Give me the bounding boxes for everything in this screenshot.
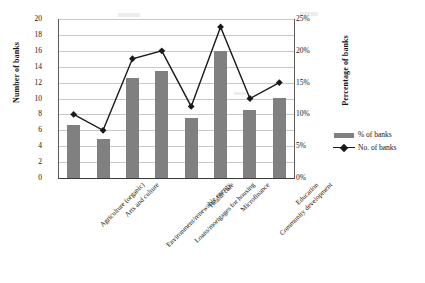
line-marker (217, 24, 224, 31)
y-tick-label-left: 12 (26, 79, 42, 87)
y-axis-left-ticks: 02468101214161820 (24, 0, 42, 283)
y-tick-label-left: 8 (26, 110, 42, 118)
plot-area (58, 19, 295, 179)
legend-item-no-of-banks: No. of banks (333, 141, 423, 154)
y-tick-label-right: 20% (296, 47, 318, 55)
x-axis-category-labels: Agriculture (organic)Arts and cultureEnv… (58, 179, 293, 279)
y-tick-label-right: 10% (296, 110, 318, 118)
y-tick-label-left: 18 (26, 31, 42, 39)
y-tick-label-left: 6 (26, 126, 42, 134)
y-axis-left-title: Number of banks (12, 29, 21, 117)
y-tick-label-left: 16 (26, 47, 42, 55)
y-tick-label-left: 14 (26, 63, 42, 71)
bar-swatch-icon (333, 129, 355, 141)
y-tick-label-right: 25% (296, 15, 318, 23)
y-tick-label-left: 2 (26, 158, 42, 166)
line-marker (276, 79, 283, 86)
y-tick-label-left: 0 (26, 174, 42, 182)
line-series (59, 19, 294, 178)
y-tick-label-right: 5% (296, 142, 318, 150)
chart-legend: % of banks No. of banks (333, 128, 423, 154)
line-diamond-icon (333, 142, 355, 154)
legend-label: No. of banks (358, 143, 397, 152)
y-axis-right-ticks: 0%5%10%15%20%25% (296, 0, 320, 283)
y-tick-label-left: 4 (26, 142, 42, 150)
scan-artifact (118, 13, 140, 17)
legend-label: % of banks (358, 130, 392, 139)
chart-container: Number of banks Percentage of banks 0246… (0, 0, 425, 283)
line-marker (100, 127, 107, 134)
line-marker (158, 47, 165, 54)
y-tick-label-left: 20 (26, 15, 42, 23)
legend-item-percent-of-banks: % of banks (333, 128, 423, 141)
y-tick-label-right: 15% (296, 79, 318, 87)
line-marker (129, 55, 136, 62)
line-marker (247, 95, 254, 102)
line-marker (70, 111, 77, 118)
y-tick-label-left: 10 (26, 95, 42, 103)
line-marker (188, 103, 195, 110)
line-path (74, 27, 280, 130)
y-axis-right-title: Percentage of banks (341, 23, 350, 119)
